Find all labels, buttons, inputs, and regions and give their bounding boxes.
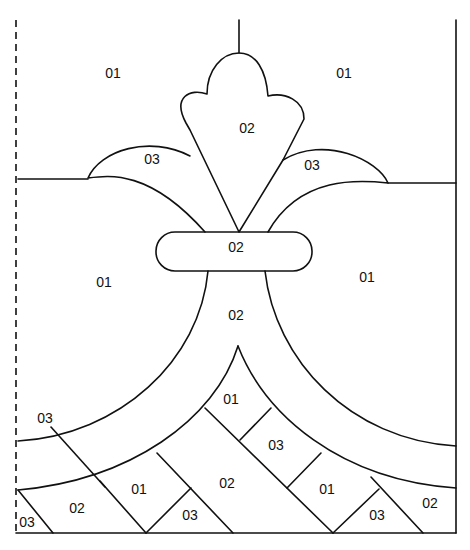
region-label-base-center: 02 (219, 475, 235, 491)
region-label-bottom-center: 03 (182, 507, 198, 523)
region-label-arch-right-1: 03 (268, 437, 284, 453)
region-label-right-leaf: 03 (304, 157, 320, 173)
region-label-center-petal: 02 (239, 120, 255, 136)
region-label-corner-left: 03 (19, 514, 35, 530)
lattice-7 (240, 408, 271, 440)
region-label-top-right-bg: 01 (336, 65, 352, 81)
region-label-arch-top: 01 (223, 391, 239, 407)
region-label-top-left-bg: 01 (105, 65, 121, 81)
pattern-diagram: 0101020303020101020103030102010203030203 (0, 0, 470, 550)
region-label-bottom-far-right: 02 (422, 495, 438, 511)
lattice-5 (371, 477, 423, 533)
stem-right-curve (265, 271, 456, 446)
lattice-4 (205, 408, 333, 533)
region-label-bottom-right: 03 (369, 507, 385, 523)
pattern-svg: 0101020303020101020103030102010203030203 (0, 0, 470, 550)
region-label-base-left: 01 (131, 481, 147, 497)
lattice-8 (287, 453, 321, 488)
region-label-stem: 02 (228, 307, 244, 323)
region-labels: 0101020303020101020103030102010203030203 (19, 65, 438, 530)
right-leaf-outline (268, 150, 388, 232)
center-petal-outline (181, 53, 304, 232)
region-label-left-leaf: 03 (144, 151, 160, 167)
region-label-right-mid-bg: 01 (359, 269, 375, 285)
region-label-base-right: 01 (319, 481, 335, 497)
label-leader-line (51, 427, 105, 487)
region-label-collar-band: 02 (228, 239, 244, 255)
region-label-left-mid-bg: 01 (96, 274, 112, 290)
region-label-left-border-tag: 03 (37, 410, 53, 426)
inner-arch-right (238, 346, 456, 488)
region-label-bottom-left-big: 02 (69, 500, 85, 516)
